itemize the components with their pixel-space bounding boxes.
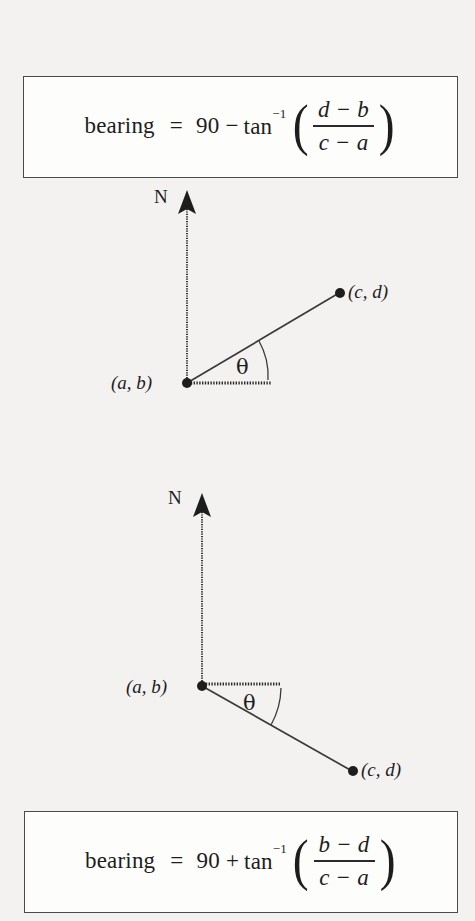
formula-numerator: b − d [314, 831, 375, 858]
formula-exponent: −1 [272, 106, 286, 121]
target-coordinate-label: (c, d) [348, 281, 388, 303]
bearing-diagram-northeast: N (a, b) (c, d) θ [0, 180, 475, 405]
formula-equals-sign: = [170, 848, 183, 874]
north-label: N [168, 487, 182, 509]
formula-numerator: d − b [313, 96, 374, 123]
formula-denominator: c − a [314, 129, 374, 156]
bearing-diagram-southeast: N (a, b) (c, d) θ [0, 480, 475, 800]
angle-arc [259, 341, 268, 380]
formula-paren-close: ) [379, 104, 395, 147]
origin-coordinate-label: (a, b) [111, 372, 152, 394]
angle-arc [271, 688, 281, 725]
formula-paren-open: ( [292, 104, 308, 147]
formula-fraction-bar [314, 860, 375, 861]
formula-equals-sign: = [170, 113, 183, 139]
formula-operator: + [226, 848, 239, 874]
formula-box-top: bearing = 90 − tan−1 ( d − b c − a ) [23, 76, 458, 178]
formula-fraction-bar [313, 125, 374, 126]
formula-expression-bottom: bearing = 90 + tan−1 ( b − d c − a ) [85, 831, 397, 891]
formula-trig-name: tan [244, 113, 273, 138]
north-arrowhead-icon [193, 493, 211, 517]
bearing-ray-line [202, 686, 352, 771]
formula-fraction: b − d c − a [314, 831, 375, 891]
formula-trig-name: tan [244, 848, 273, 873]
formula-label-bearing: bearing [84, 113, 154, 139]
formula-arctan-function: tan−1 [244, 848, 287, 875]
formula-operator: − [225, 113, 238, 139]
diagram-southeast-svg [0, 480, 475, 800]
angle-theta-label: θ [236, 355, 249, 379]
target-coordinate-label: (c, d) [361, 759, 401, 781]
formula-expression-top: bearing = 90 − tan−1 ( d − b c − a ) [84, 96, 396, 156]
origin-coordinate-label: (a, b) [126, 676, 167, 698]
formula-paren-close: ) [379, 839, 395, 882]
formula-fraction: d − b c − a [313, 96, 374, 156]
formula-paren-open: ( [293, 839, 309, 882]
formula-box-bottom: bearing = 90 + tan−1 ( b − d c − a ) [24, 811, 458, 913]
target-point-marker [348, 766, 358, 776]
north-arrowhead-icon [178, 190, 196, 214]
origin-point-marker [182, 378, 192, 388]
formula-constant-90: 90 [196, 113, 219, 139]
formula-label-bearing: bearing [85, 848, 155, 874]
formula-denominator: c − a [314, 864, 374, 891]
target-point-marker [335, 288, 345, 298]
formula-constant-90: 90 [196, 848, 219, 874]
formula-exponent: −1 [273, 841, 287, 856]
angle-theta-label: θ [243, 691, 256, 715]
origin-point-marker [197, 681, 207, 691]
formula-arctan-function: tan−1 [244, 113, 287, 140]
page-canvas: bearing = 90 − tan−1 ( d − b c − a ) [0, 0, 475, 921]
bearing-ray-line [187, 293, 339, 383]
north-label: N [154, 186, 168, 208]
